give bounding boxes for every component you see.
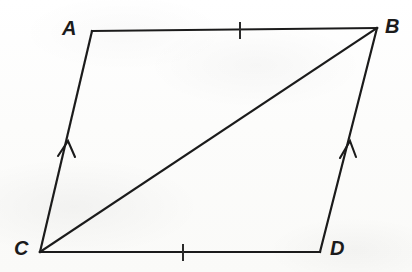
arrow-on-DB [340, 141, 356, 158]
arrow-on-CA [58, 141, 75, 157]
vertex-label-c: C [14, 238, 28, 258]
edge-CA [40, 31, 92, 252]
vertex-label-b: B [385, 16, 399, 36]
edge-AB [92, 28, 377, 31]
vertex-label-d: D [330, 238, 344, 258]
geometry-figure: A B C D [0, 0, 412, 272]
vertex-label-a: A [62, 18, 76, 38]
edge-BD [320, 28, 377, 252]
quadrilateral-diagram-svg [0, 0, 412, 272]
diagonal-CB [40, 28, 377, 252]
